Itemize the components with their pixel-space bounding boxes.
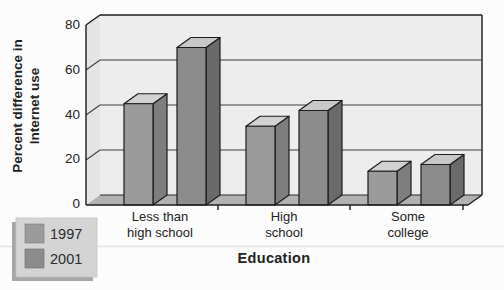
x-axis-title: Education (238, 250, 311, 266)
bar-2001-1-side (206, 38, 220, 206)
legend: 1997 2001 (12, 218, 97, 281)
bar-1997-2-front (246, 126, 275, 205)
category-label-less-than-hs-line2: high school (127, 225, 193, 240)
bar-1997-1-side (153, 94, 167, 205)
chart-svg: 0 20 40 60 80 Less than high school High… (0, 0, 504, 290)
category-label-high-school-line1: High (271, 209, 298, 224)
y-axis-title-line1: Percent difference in (10, 39, 25, 173)
bar-1997-2-side (275, 116, 289, 205)
bar-2001-1 (177, 38, 220, 206)
legend-swatch-2001 (25, 249, 44, 268)
y-axis-title-line2: Internet use (27, 67, 42, 144)
legend-label-2001: 2001 (50, 251, 82, 267)
bar-2001-2-side (328, 101, 342, 206)
bar-1997-1 (124, 94, 167, 205)
bar-2001-2-front (299, 111, 328, 206)
bar-1997-2 (246, 116, 289, 205)
y-tick-label-60: 60 (65, 62, 80, 77)
bar-1997-1-front (124, 104, 153, 205)
y-tick-label-40: 40 (65, 107, 80, 122)
category-label-less-than-hs-line1: Less than (132, 209, 188, 224)
category-label-some-college-line2: college (387, 225, 428, 240)
legend-label-1997: 1997 (50, 226, 82, 242)
y-tick-label-0: 0 (72, 196, 80, 211)
category-label-high-school-line2: school (265, 225, 303, 240)
chart-figure: 0 20 40 60 80 Less than high school High… (0, 0, 504, 290)
y-tick-label-80: 80 (65, 17, 80, 32)
bar-1997-3-front (368, 171, 397, 205)
legend-swatch-1997 (25, 224, 44, 243)
y-tick-label-20: 20 (65, 151, 80, 166)
bar-1997-3 (368, 161, 411, 205)
bar-2001-3 (421, 155, 464, 206)
bar-2001-2 (299, 101, 342, 206)
category-label-some-college-line1: Some (391, 209, 425, 224)
bar-2001-1-front (177, 48, 206, 206)
bar-2001-3-front (421, 165, 450, 206)
